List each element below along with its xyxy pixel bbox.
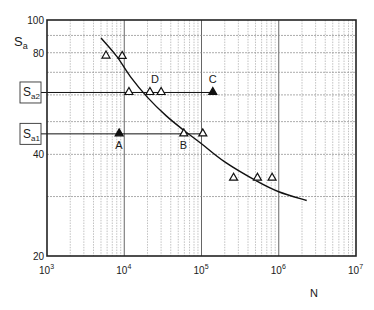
y-tick-label: 100 [27, 15, 44, 26]
svg-text:Sa: Sa [14, 34, 28, 51]
open-triangle-marker [230, 173, 238, 180]
open-triangle-marker [157, 87, 165, 94]
reference-lines [41, 92, 213, 133]
open-triangle-marker [146, 87, 154, 94]
y-tick-label: 20 [33, 251, 45, 262]
point-label-a: A [115, 139, 123, 151]
x-axis-label: N [310, 287, 318, 299]
x-axis-tick-labels: 103104105106107 [39, 263, 363, 276]
open-triangle-marker [102, 51, 110, 58]
open-triangle-marker [199, 129, 207, 136]
open-triangle-marker [268, 173, 276, 180]
filled-triangle-marker [115, 129, 123, 136]
y-tick-label: 40 [33, 149, 45, 160]
sn-chart: ABCD 100804020 103104105106107 Sa N Sa2S… [0, 0, 374, 310]
y-tick-label: 80 [33, 48, 45, 59]
x-tick-label: 107 [348, 263, 363, 276]
x-tick-label: 105 [194, 263, 209, 276]
point-label-d: D [151, 73, 159, 85]
open-triangle-marker [253, 173, 261, 180]
open-triangle-marker [125, 87, 133, 94]
data-markers [102, 51, 276, 180]
filled-triangle-marker [209, 87, 217, 94]
x-tick-label: 106 [271, 263, 286, 276]
point-label-c: C [209, 73, 217, 85]
x-tick-label: 104 [116, 263, 131, 276]
y-axis-label: Sa [14, 34, 28, 51]
grid-lines [47, 20, 356, 256]
reference-level-labels: Sa2Sa1 [20, 82, 41, 144]
sn-curve [101, 38, 307, 200]
x-tick-label: 103 [39, 263, 54, 276]
point-label-b: B [180, 139, 187, 151]
